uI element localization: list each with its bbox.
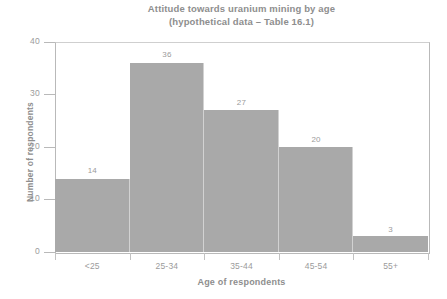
x-tick-1 (130, 253, 131, 260)
x-tick-2 (204, 253, 205, 260)
y-tick-10 (44, 199, 55, 200)
x-axis-title: Age of respondents (55, 277, 428, 287)
chart-title: Attitude towards uranium mining by age (… (55, 2, 428, 28)
x-tick-4 (353, 253, 354, 260)
bar-chart: Attitude towards uranium mining by age (… (0, 0, 447, 299)
y-tick-40 (44, 42, 55, 43)
x-tick-5 (428, 253, 429, 260)
y-tick-20 (44, 147, 55, 148)
bar-35-44[interactable] (204, 110, 279, 252)
x-tick-label-35-44: 35-44 (202, 261, 282, 271)
chart-title-line1: Attitude towards uranium mining by age (148, 3, 335, 14)
bar-value-55plus: 3 (353, 225, 428, 234)
y-axis-title: Number of respondents (25, 52, 35, 252)
y-tick-label-40: 40 (12, 36, 40, 46)
x-tick-label-45-54: 45-54 (276, 261, 356, 271)
bar-45-54[interactable] (279, 147, 354, 252)
x-tick-label-55plus: 55+ (351, 261, 431, 271)
x-tick-3 (279, 253, 280, 260)
bar-lt25[interactable] (55, 179, 130, 253)
bar-25-34[interactable] (130, 63, 205, 252)
x-tick-label-25-34: 25-34 (127, 261, 207, 271)
x-tick-label-lt25: <25 (52, 261, 132, 271)
y-tick-30 (44, 94, 55, 95)
chart-subtitle: (hypothetical data – Table 16.1) (55, 15, 428, 28)
y-tick-0 (44, 252, 55, 253)
bar-value-25-34: 36 (130, 50, 205, 59)
bar-55plus[interactable] (353, 236, 428, 252)
bar-value-45-54: 20 (279, 135, 354, 144)
x-tick-0 (55, 253, 56, 260)
bar-value-lt25: 14 (55, 166, 130, 175)
bar-value-35-44: 27 (204, 98, 279, 107)
bars-layer (55, 42, 428, 252)
